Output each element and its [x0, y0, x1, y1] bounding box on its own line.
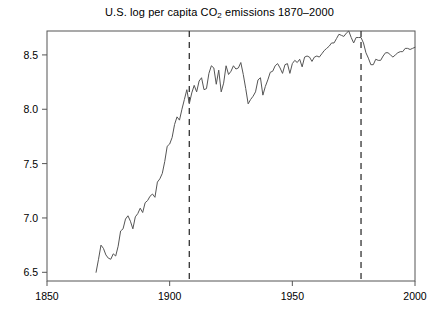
- y-axis-tick-label: 7.0: [23, 212, 38, 224]
- x-axis-tick-label: 1900: [158, 290, 182, 302]
- x-axis-tick-label: 1950: [281, 290, 305, 302]
- y-axis-tick-label: 6.5: [23, 266, 38, 278]
- chart-figure: U.S. log per capita CO2 emissions 1870–2…: [0, 0, 439, 316]
- y-axis-tick-label: 7.5: [23, 158, 38, 170]
- x-axis-tick-label: 1850: [35, 290, 59, 302]
- data-series-line: [96, 31, 415, 272]
- plot-frame: [47, 31, 415, 281]
- y-axis-tick-label: 8.5: [23, 49, 38, 61]
- line-chart-plot: 18501900195020006.57.07.58.08.5: [0, 0, 439, 316]
- y-axis-tick-label: 8.0: [23, 103, 38, 115]
- x-axis-tick-label: 2000: [403, 290, 427, 302]
